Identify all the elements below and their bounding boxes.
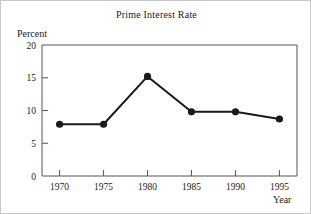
data-point-marker bbox=[276, 115, 283, 122]
data-series-line bbox=[60, 76, 280, 124]
data-point-marker bbox=[56, 121, 63, 128]
x-tick-label: 1990 bbox=[226, 182, 245, 192]
data-point-marker bbox=[188, 108, 195, 115]
data-point-marker bbox=[144, 73, 151, 80]
y-tick-label: 10 bbox=[27, 106, 37, 116]
x-tick-label: 1985 bbox=[182, 182, 201, 192]
x-tick-label: 1995 bbox=[270, 182, 289, 192]
y-axis-ticks: 05101520 bbox=[27, 41, 49, 182]
chart-figure: Prime Interest Rate Percent Year 0510152… bbox=[0, 0, 311, 214]
data-point-markers bbox=[56, 73, 283, 128]
data-point-marker bbox=[232, 108, 239, 115]
y-tick-label: 15 bbox=[27, 73, 37, 83]
plot-border bbox=[42, 45, 297, 176]
y-tick-label: 5 bbox=[31, 139, 36, 149]
x-tick-label: 1970 bbox=[50, 182, 69, 192]
axis-frame bbox=[42, 45, 297, 176]
y-tick-label: 0 bbox=[31, 172, 36, 182]
y-tick-label: 20 bbox=[27, 41, 37, 51]
data-point-marker bbox=[100, 121, 107, 128]
plot-area: 05101520 197019751980198519901995 bbox=[1, 1, 311, 214]
x-tick-label: 1980 bbox=[138, 182, 157, 192]
x-axis-ticks: 197019751980198519901995 bbox=[50, 170, 289, 192]
x-tick-label: 1975 bbox=[94, 182, 113, 192]
line-path bbox=[60, 76, 280, 124]
